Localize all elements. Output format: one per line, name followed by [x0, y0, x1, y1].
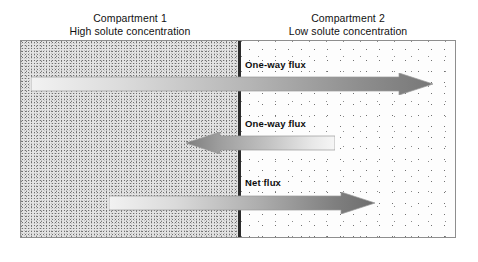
one-way-flux-top-label: One-way flux [245, 59, 306, 70]
compartment-2-heading-line2: Low solute concentration [240, 25, 456, 38]
one-way-flux-right-arrow [31, 73, 433, 95]
one-way-flux-left-arrow [186, 132, 335, 154]
compartment-2-heading: Compartment 2 Low solute concentration [240, 12, 456, 37]
net-flux-right-arrow [109, 192, 375, 214]
one-way-flux-middle-label: One-way flux [245, 118, 306, 129]
net-flux-label: Net flux [245, 177, 281, 188]
compartment-2-heading-line1: Compartment 2 [311, 12, 385, 24]
membrane-flux-diagram: Compartment 1 High solute concentration … [0, 0, 478, 262]
compartment-1-heading-line1: Compartment 1 [93, 12, 167, 24]
chamber-box [20, 40, 456, 238]
compartment-1-heading: Compartment 1 High solute concentration [22, 12, 238, 37]
compartment-1-heading-line2: High solute concentration [22, 25, 238, 38]
